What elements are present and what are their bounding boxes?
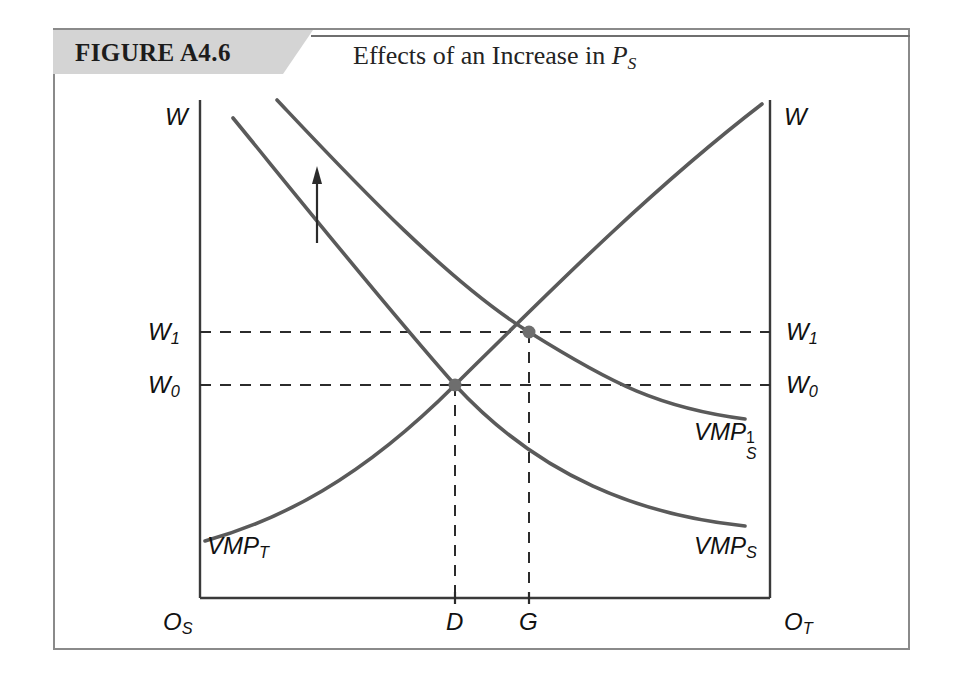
- quantity-label-g: G: [519, 610, 538, 634]
- curve-label-vmp-s1-base: VMP: [694, 418, 746, 445]
- origin-label-left-base: O: [163, 608, 182, 635]
- curve-label-vmp-s1-sub: S: [746, 446, 757, 462]
- figure-number-label: FIGURE A4.6: [75, 39, 231, 67]
- header-rule: [311, 35, 910, 37]
- wage-label-w0-right-sub: 0: [809, 382, 818, 400]
- wage-label-w1-left: W1: [148, 320, 180, 346]
- wage-label-w0-left-sub: 0: [171, 382, 180, 400]
- wage-label-w1-right-base: W: [786, 318, 809, 345]
- wage-label-w0-right: W0: [786, 373, 818, 399]
- figure-title-symbol: P: [612, 41, 628, 70]
- origin-label-right-sub: T: [803, 619, 813, 637]
- origin-label-left-sub: S: [182, 619, 193, 637]
- quantity-label-d: D: [446, 610, 463, 634]
- curve-label-vmp-t: VMPT: [207, 534, 269, 560]
- wage-label-w0-right-base: W: [786, 371, 809, 398]
- curve-label-vmp-s-base: VMP: [694, 532, 746, 559]
- curve-label-vmp-s1: VMP1S: [694, 420, 761, 444]
- wage-label-w1-right: W1: [786, 320, 818, 346]
- right-axis-label-w: W: [784, 105, 807, 129]
- figure-container: FIGURE A4.6 Effects of an Increase in PS: [0, 0, 962, 688]
- wage-label-w0-left-base: W: [148, 371, 171, 398]
- figure-header: FIGURE A4.6 Effects of an Increase in PS: [53, 30, 910, 76]
- wage-label-w1-left-base: W: [148, 318, 171, 345]
- origin-label-right-base: O: [784, 608, 803, 635]
- origin-label-right: OT: [784, 610, 813, 636]
- wage-label-w0-left: W0: [148, 373, 180, 399]
- curve-label-vmp-s1-sup: 1: [746, 430, 755, 446]
- curve-label-vmp-s: VMPS: [694, 534, 757, 560]
- curve-label-vmp-t-sub: T: [259, 543, 269, 561]
- curve-label-vmp-s-sub: S: [746, 543, 757, 561]
- figure-title: Effects of an Increase in PS: [353, 41, 636, 74]
- figure-title-symbol-sub: S: [628, 53, 637, 73]
- curve-label-vmp-t-base: VMP: [207, 532, 259, 559]
- origin-label-left: OS: [163, 610, 193, 636]
- figure-title-text: Effects of an Increase in: [353, 41, 605, 70]
- left-axis-label-w: W: [165, 105, 188, 129]
- wage-label-w1-left-sub: 1: [171, 329, 180, 347]
- wage-label-w1-right-sub: 1: [809, 329, 818, 347]
- figure-tag-taper: [283, 30, 313, 74]
